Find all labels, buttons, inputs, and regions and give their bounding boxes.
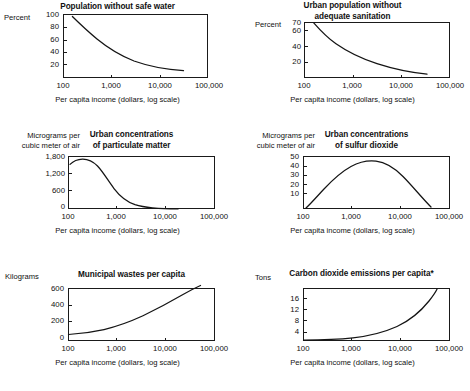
y-tick-label: 16 [275, 295, 299, 303]
x-tickmark [351, 206, 352, 210]
y-tick-label: 4 [275, 328, 299, 336]
x-tick-label: 100 [289, 345, 317, 353]
y-tickmark [68, 321, 72, 322]
x-axis-label: Per capita income (dollars, log scale) [235, 226, 470, 235]
y-tickmark [63, 27, 67, 28]
series-line [304, 289, 438, 340]
y-tick-label: 30 [273, 171, 299, 179]
x-tick-label: 100 [289, 213, 317, 221]
y-tick-label: 0 [32, 203, 65, 211]
x-tickmark [116, 338, 117, 342]
y-tick-label: 10 [273, 190, 299, 198]
x-tickmark [116, 206, 117, 210]
x-tick-label: 1,000 [102, 213, 130, 221]
y-tickmark [63, 52, 67, 53]
x-tickmark [165, 338, 166, 342]
x-tickmark [165, 206, 166, 210]
y-tickmark [303, 309, 307, 310]
y-tick-label: 60 [33, 36, 59, 44]
x-tickmark [400, 338, 401, 342]
x-tick-label: 1,000 [338, 82, 366, 90]
panel-urban-population-without-adequate-sanitation: Urban population without adequate sanita… [235, 0, 470, 130]
series-line [306, 161, 431, 208]
y-tickmark [304, 62, 308, 63]
x-tick-label: 100,000 [191, 82, 227, 90]
x-tickmark [401, 75, 402, 79]
panel-urban-concentrations-of-particulate-matter: Micrograms per cubic meter of air Urban … [0, 128, 235, 258]
y-tick-label: 600 [38, 285, 64, 293]
x-tick-label: 1,000 [337, 213, 365, 221]
x-tick-label: 100 [54, 213, 82, 221]
x-tickmark [160, 75, 161, 79]
panel-population-without-safe-water: Population without safe water Percent 10… [0, 0, 235, 130]
panel-carbon-dioxide-emissions-per-capita: Tons Carbon dioxide emissions per capita… [235, 260, 470, 390]
y-tick-label: 8 [275, 317, 299, 325]
series-line [314, 23, 428, 75]
y-tickmark [303, 332, 307, 333]
y-tick-label: 20 [273, 181, 299, 189]
y-tickmark [304, 30, 308, 31]
x-axis-label: Per capita income (dollars, log scale) [0, 226, 235, 235]
y-tickmark [63, 64, 67, 65]
x-axis-label: Per capita income (dollars, log scale) [0, 95, 235, 104]
y-tickmark [303, 166, 307, 167]
y-tick-label: 400 [38, 301, 64, 309]
curve-municipal-wastes-per-capita [0, 260, 235, 390]
x-tick-label: 100,000 [196, 213, 232, 221]
x-tickmark [351, 338, 352, 342]
y-tick-label: 600 [32, 187, 65, 195]
x-tick-label: 100,000 [432, 82, 468, 90]
curve-urban-concentrations-of-sulfur-dioxide [235, 128, 470, 258]
y-tick-label: 80 [33, 23, 59, 31]
x-tick-label: 100 [54, 345, 82, 353]
y-tick-label: 50 [273, 153, 299, 161]
y-tick-label: 40 [33, 48, 59, 56]
x-tick-label: 1,000 [97, 82, 125, 90]
x-tickmark [353, 75, 354, 79]
x-tick-label: 100,000 [196, 345, 232, 353]
y-tickmark [68, 305, 72, 306]
y-tickmark [68, 173, 72, 174]
x-tickmark [111, 75, 112, 79]
x-tickmark [400, 206, 401, 210]
series-line [69, 286, 201, 335]
y-tickmark [303, 193, 307, 194]
curve-carbon-dioxide-emissions-per-capita [235, 260, 470, 390]
y-tick-label: 40 [273, 162, 299, 170]
x-tick-label: 100 [49, 82, 77, 90]
y-tickmark [303, 175, 307, 176]
y-tick-label: 40 [275, 43, 301, 51]
y-tickmark [303, 320, 307, 321]
environment-income-chart-figure: Population without safe water Percent 10… [0, 0, 470, 391]
y-tick-label: 1,200 [32, 170, 65, 178]
x-tick-label: 10,000 [145, 82, 175, 90]
x-tick-label: 100 [290, 82, 318, 90]
x-tick-label: 1,000 [102, 345, 130, 353]
y-tick-label: 100 [33, 11, 59, 19]
x-tick-label: 10,000 [385, 345, 415, 353]
y-tick-label: 20 [33, 61, 59, 69]
y-tickmark [68, 190, 72, 191]
x-tick-label: 10,000 [385, 213, 415, 221]
y-tickmark [303, 298, 307, 299]
x-tick-label: 10,000 [150, 213, 180, 221]
x-axis-label: Per capita income (dollars, log scale) [235, 358, 470, 367]
series-line [72, 17, 183, 71]
x-axis-label: Per capita income (dollars, log scale) [0, 358, 235, 367]
curve-urban-population-without-adequate-sanitation [235, 0, 470, 130]
y-tick-label: 60 [275, 27, 301, 35]
y-tickmark [63, 40, 67, 41]
x-tick-label: 10,000 [386, 82, 416, 90]
x-tick-label: 100,000 [431, 345, 467, 353]
y-tick-label: 0 [38, 334, 64, 342]
y-tick-label: 200 [38, 317, 64, 325]
x-tick-label: 10,000 [150, 345, 180, 353]
y-tick-label: 12 [275, 306, 299, 314]
x-tick-label: 1,000 [337, 345, 365, 353]
y-tick-label: 20 [275, 58, 301, 66]
y-tick-label: 1,800 [32, 153, 65, 161]
x-axis-label: Per capita income (dollars, log scale) [235, 95, 470, 104]
y-tickmark [304, 46, 308, 47]
y-tickmark [303, 184, 307, 185]
series-line [70, 159, 178, 209]
